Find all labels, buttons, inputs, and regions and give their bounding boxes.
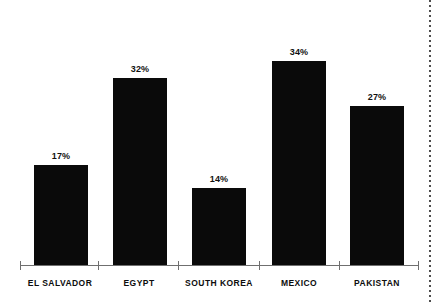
bar[interactable]: [34, 165, 88, 266]
bar-group: 17%: [34, 165, 88, 266]
bar-group: 27%: [350, 106, 404, 266]
category-label-el-salvador: EL SALVADOR: [28, 278, 92, 289]
bar-chart: 17% 32% 14% 34% 27% EL SALVADOR EGYPT SO…: [0, 0, 440, 302]
dotted-divider-rule: [429, 0, 431, 302]
axis-tick: [259, 261, 260, 270]
category-label-south-korea: SOUTH KOREA: [185, 278, 253, 289]
bar-group: 34%: [272, 61, 326, 266]
axis-tick-start: [20, 261, 21, 270]
bar[interactable]: [272, 61, 326, 266]
bar-value-label: 27%: [368, 92, 387, 103]
bar-value-label: 14%: [210, 174, 229, 185]
axis-tick: [98, 261, 99, 270]
axis-tick-end: [418, 261, 419, 270]
bar[interactable]: [113, 78, 167, 266]
bar-group: 32%: [113, 78, 167, 266]
bar-value-label: 32%: [131, 64, 150, 75]
category-label-mexico: MEXICO: [281, 278, 317, 289]
bar-group: 14%: [192, 188, 246, 266]
x-axis-line: [20, 265, 419, 266]
axis-tick: [178, 261, 179, 270]
category-label-egypt: EGYPT: [123, 278, 154, 289]
axis-tick: [339, 261, 340, 270]
bar-value-label: 34%: [290, 47, 309, 58]
bar[interactable]: [350, 106, 404, 266]
bar-value-label: 17%: [52, 151, 71, 162]
bar[interactable]: [192, 188, 246, 266]
category-label-pakistan: PAKISTAN: [354, 278, 400, 289]
plot-area: 17% 32% 14% 34% 27%: [0, 0, 440, 266]
